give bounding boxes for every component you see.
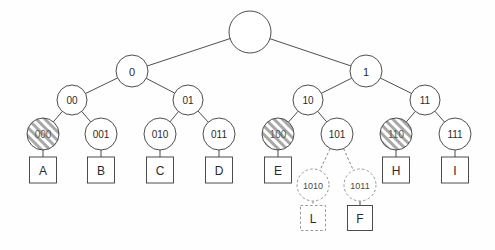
trie-diagram-svg: 0100011011000001010011100101110111101010… bbox=[0, 0, 495, 250]
leaf-label: B bbox=[97, 164, 105, 178]
node-label: 1 bbox=[363, 66, 369, 78]
leaf-box-E[interactable]: E bbox=[265, 157, 292, 183]
leaf-box-B[interactable]: B bbox=[88, 157, 115, 183]
trie-node-110[interactable]: 110 bbox=[380, 118, 412, 150]
trie-node-011[interactable]: 011 bbox=[203, 118, 235, 150]
tree-edge bbox=[86, 78, 118, 94]
leaf-label: C bbox=[156, 164, 165, 178]
leaf-box-A[interactable]: A bbox=[30, 157, 57, 183]
tree-edge bbox=[170, 112, 178, 122]
trie-node-101[interactable]: 101 bbox=[321, 118, 353, 150]
trie-node-1010[interactable]: 1010 bbox=[297, 169, 329, 201]
leaf-label: I bbox=[453, 164, 456, 178]
leaf-box-F[interactable]: F bbox=[348, 206, 373, 231]
tree-edge bbox=[320, 148, 330, 170]
node-label: 00 bbox=[66, 95, 78, 106]
node-label: 11 bbox=[420, 95, 431, 106]
node-label: 110 bbox=[388, 129, 404, 140]
tree-edge bbox=[289, 111, 298, 122]
trie-node-1011[interactable]: 1011 bbox=[344, 169, 376, 201]
trie-node-01[interactable]: 01 bbox=[173, 85, 203, 115]
node-circle bbox=[229, 11, 271, 53]
trie-node-000[interactable]: 000 bbox=[27, 118, 59, 150]
leaf-label: L bbox=[310, 212, 317, 226]
trie-node-root[interactable] bbox=[229, 11, 271, 53]
tree-edge bbox=[406, 111, 415, 121]
leaf-box-I[interactable]: I bbox=[442, 157, 469, 183]
node-label: 10 bbox=[302, 95, 314, 106]
node-label: 1010 bbox=[303, 181, 323, 191]
tree-edge bbox=[318, 111, 327, 121]
trie-node-001[interactable]: 001 bbox=[85, 118, 117, 150]
trie-diagram-canvas: 0100011011000001010011100101110111101010… bbox=[0, 0, 495, 250]
trie-node-100[interactable]: 100 bbox=[262, 118, 294, 150]
node-label: 010 bbox=[152, 129, 169, 140]
trie-node-11[interactable]: 11 bbox=[410, 85, 440, 115]
node-label: 011 bbox=[211, 129, 227, 140]
leaf-box-L[interactable]: L bbox=[301, 206, 326, 231]
tree-edge bbox=[146, 78, 174, 93]
leaf-box-H[interactable]: H bbox=[383, 157, 410, 183]
trie-node-00[interactable]: 00 bbox=[57, 85, 87, 115]
leaf-label: F bbox=[356, 212, 363, 226]
node-label: 111 bbox=[447, 129, 463, 140]
node-label: 001 bbox=[93, 129, 110, 140]
trie-node-010[interactable]: 010 bbox=[144, 118, 176, 150]
tree-edge bbox=[270, 39, 351, 66]
trie-node-10[interactable]: 10 bbox=[293, 85, 323, 115]
tree-edge bbox=[198, 111, 208, 122]
leaf-box-D[interactable]: D bbox=[206, 157, 233, 183]
tree-edge bbox=[321, 78, 351, 93]
leaf-label: A bbox=[39, 164, 47, 178]
leaf-label: D bbox=[215, 164, 224, 178]
leaf-layer: ABCDEHILF bbox=[30, 157, 469, 231]
tree-edge bbox=[53, 111, 62, 121]
node-label: 100 bbox=[270, 129, 287, 140]
trie-node-1[interactable]: 1 bbox=[350, 55, 382, 87]
tree-edge bbox=[344, 149, 354, 171]
tree-edge bbox=[435, 111, 444, 122]
trie-node-0[interactable]: 0 bbox=[116, 55, 148, 87]
node-label: 0 bbox=[129, 66, 135, 78]
trie-node-111[interactable]: 111 bbox=[439, 118, 471, 150]
leaf-label: H bbox=[392, 164, 401, 178]
node-label: 000 bbox=[35, 129, 52, 140]
leaf-label: E bbox=[274, 164, 282, 178]
tree-edge bbox=[380, 78, 411, 93]
node-label: 101 bbox=[329, 129, 346, 140]
leaf-box-C[interactable]: C bbox=[147, 157, 174, 183]
tree-edge bbox=[82, 111, 91, 121]
node-label: 1011 bbox=[350, 181, 369, 191]
node-label: 01 bbox=[182, 95, 194, 106]
tree-edge bbox=[147, 39, 230, 66]
